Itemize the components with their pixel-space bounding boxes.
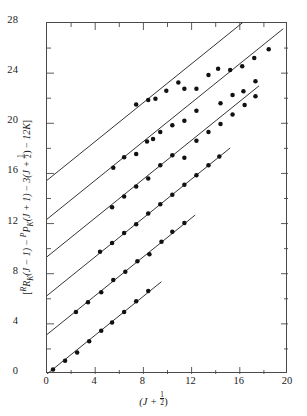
data-point bbox=[147, 252, 152, 257]
data-point bbox=[182, 156, 187, 161]
data-point bbox=[110, 205, 115, 210]
y-title-minus-2: − bbox=[21, 183, 32, 194]
data-point bbox=[182, 182, 187, 187]
y-title-term2-superscript: P bbox=[19, 233, 28, 238]
data-point bbox=[176, 80, 181, 85]
data-point bbox=[164, 88, 169, 93]
data-point bbox=[242, 103, 247, 108]
x-axis-title: (J + 12) bbox=[0, 391, 307, 407]
x-tick-label: 20 bbox=[282, 375, 293, 386]
y-tick-value: 24 bbox=[7, 64, 18, 75]
y-title-term1-argument: (J − 1) bbox=[21, 248, 32, 276]
y-title-close: ] bbox=[21, 120, 32, 123]
y-title-term1-subscript: K bbox=[26, 276, 35, 281]
data-point bbox=[146, 289, 151, 294]
data-point bbox=[99, 290, 104, 295]
data-point bbox=[146, 176, 151, 181]
data-point bbox=[230, 93, 235, 98]
y-title-fraction-half: 12 bbox=[16, 154, 32, 158]
fit-line bbox=[47, 23, 287, 180]
data-point bbox=[170, 229, 175, 234]
data-point bbox=[122, 194, 127, 199]
fit-line bbox=[47, 29, 283, 219]
data-point bbox=[252, 56, 257, 61]
data-point bbox=[159, 239, 164, 244]
plot-area bbox=[46, 22, 287, 373]
data-point bbox=[206, 73, 211, 78]
data-point bbox=[182, 119, 187, 124]
data-point bbox=[99, 329, 104, 334]
series-group-1 bbox=[47, 215, 195, 334]
data-point bbox=[134, 102, 139, 107]
data-point bbox=[87, 339, 92, 344]
data-point bbox=[145, 139, 150, 144]
y-title-term1-symbol: R bbox=[21, 281, 32, 287]
data-point bbox=[122, 231, 127, 236]
x-tick-label: 4 bbox=[92, 375, 97, 386]
plot-svg bbox=[47, 23, 288, 374]
data-point bbox=[206, 163, 211, 168]
data-point bbox=[123, 270, 128, 275]
x-tick-label: 0 bbox=[43, 375, 48, 386]
y-title-minus-3: − bbox=[21, 140, 32, 151]
data-point bbox=[253, 94, 258, 99]
y-title-term3: 3(J + bbox=[21, 158, 32, 183]
data-point bbox=[111, 278, 116, 283]
data-point bbox=[217, 154, 222, 159]
data-point bbox=[218, 122, 223, 127]
data-point bbox=[110, 241, 115, 246]
data-point bbox=[158, 202, 163, 207]
data-point bbox=[51, 367, 56, 372]
data-point bbox=[194, 139, 199, 144]
series-group-3 bbox=[47, 86, 259, 257]
y-title-open: [ bbox=[21, 292, 32, 295]
data-point bbox=[240, 64, 245, 69]
data-point bbox=[75, 350, 80, 355]
data-point bbox=[134, 152, 139, 157]
data-point bbox=[194, 173, 199, 178]
x-title-close: ) bbox=[164, 396, 168, 407]
data-point bbox=[122, 310, 127, 315]
data-point bbox=[63, 359, 67, 364]
series-group-5 bbox=[47, 23, 287, 180]
fit-line bbox=[47, 148, 230, 296]
x-tick-label: 8 bbox=[140, 375, 145, 386]
data-point bbox=[182, 87, 187, 92]
data-point bbox=[206, 130, 211, 135]
data-point bbox=[170, 123, 175, 128]
y-title-term2-subscript: K bbox=[26, 221, 35, 226]
data-point bbox=[86, 300, 91, 305]
data-point bbox=[146, 98, 151, 103]
data-point bbox=[266, 47, 271, 52]
y-title-fraction-denominator: 2 bbox=[23, 154, 31, 158]
y-tick-value: 0 bbox=[13, 365, 18, 376]
data-point bbox=[241, 89, 246, 94]
y-axis-title: [RRK(J − 1) − PPK(J + 1) − 3(J + 12) − 1… bbox=[17, 82, 36, 332]
x-title-open: (J + bbox=[139, 396, 160, 407]
data-point bbox=[158, 163, 163, 168]
y-title-term2-argument: (J + 1) bbox=[21, 193, 32, 221]
data-point bbox=[151, 137, 156, 142]
fit-line bbox=[47, 86, 259, 257]
data-point bbox=[230, 112, 235, 117]
data-point bbox=[216, 67, 221, 72]
data-point bbox=[135, 259, 140, 264]
data-point bbox=[228, 68, 233, 73]
data-point bbox=[146, 211, 151, 216]
data-point bbox=[182, 221, 187, 226]
data-point bbox=[170, 192, 175, 197]
figure: 0481216202428 048121620 [RRK(J − 1) − PP… bbox=[0, 0, 307, 416]
y-title-minus-1: − bbox=[21, 237, 32, 248]
y-title-term4: 12K bbox=[21, 123, 32, 140]
data-point bbox=[194, 109, 199, 114]
x-title-fraction-denominator: 2 bbox=[160, 398, 164, 406]
data-point bbox=[170, 153, 175, 158]
data-point bbox=[218, 101, 223, 106]
data-point bbox=[98, 250, 103, 255]
data-point bbox=[153, 97, 158, 102]
data-point bbox=[122, 155, 127, 160]
series-group-2 bbox=[47, 148, 230, 296]
y-title-term1-superscript: R bbox=[19, 287, 28, 292]
x-tick-label: 16 bbox=[234, 375, 245, 386]
series-group-4 bbox=[47, 29, 283, 219]
